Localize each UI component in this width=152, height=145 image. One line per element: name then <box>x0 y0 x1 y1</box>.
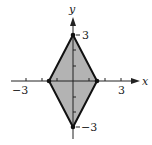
x-axis-label: x <box>142 75 149 88</box>
y-axis-label: y <box>68 3 76 16</box>
x-tick-label-3: 3 <box>118 84 125 97</box>
diagram-canvas: y x −3 3 3 −3 <box>0 0 152 145</box>
x-axis-arrow-icon <box>131 78 140 84</box>
x-tick-label-neg3: −3 <box>12 84 28 97</box>
y-tick-label-3: 3 <box>82 29 89 42</box>
y-axis-arrow-icon <box>70 17 76 26</box>
y-tick-label-neg3: −3 <box>81 121 97 134</box>
